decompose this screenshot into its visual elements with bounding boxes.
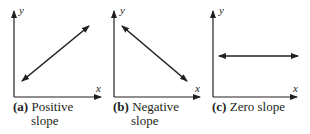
y-axis-label: y (119, 4, 125, 16)
x-axis-label: x (292, 82, 298, 94)
y-axis-label: y (18, 4, 24, 16)
caption-text-2: slope (113, 113, 158, 128)
caption-text-2: slope (13, 113, 58, 128)
x-axis-label: x (95, 82, 101, 94)
panel-c-graph: y x (213, 4, 298, 97)
positive-slope-line (22, 26, 89, 81)
caption-tag: (b) (113, 99, 129, 114)
caption-text: Zero slope (230, 99, 285, 114)
x-axis-label: x (194, 82, 200, 94)
panel-b-graph: y x (114, 4, 200, 97)
caption-text: Positive (31, 99, 73, 114)
caption-tag: (a) (13, 99, 28, 114)
negative-slope-line (122, 26, 187, 81)
panel-a-graph: y x (14, 4, 101, 97)
caption-a: (a) Positive slope (13, 100, 73, 128)
y-axis-label: y (218, 4, 224, 16)
caption-tag: (c) (212, 99, 226, 114)
caption-b: (b) Negative slope (113, 100, 179, 128)
caption-text: Negative (132, 99, 179, 114)
caption-c: (c) Zero slope (212, 100, 285, 114)
